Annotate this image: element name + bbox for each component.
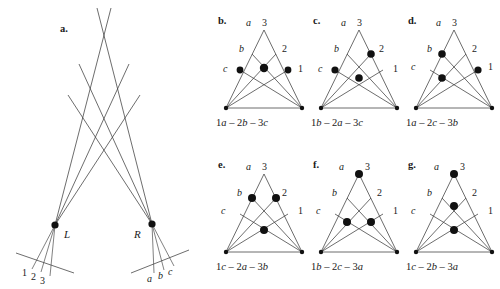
cap-var: c: [263, 117, 268, 128]
panel-f-upper-label-b: b: [332, 187, 337, 198]
panel-g-triangle: [414, 174, 494, 254]
config-dot: [260, 64, 268, 72]
cap-var: c: [358, 117, 363, 128]
left-plane-ticks: [32, 225, 55, 276]
config-dot: [367, 218, 375, 226]
panel-b-apex-label-a: a: [246, 17, 251, 28]
panel-e: e. a 3 b 2 c 1: [216, 159, 304, 272]
panel-c-caption: 1b – 2a – 3c: [311, 117, 363, 128]
base-vertex-right: [490, 106, 494, 110]
panel-d-triangle: [414, 30, 494, 110]
panel-b-upper-label-b: b: [239, 43, 244, 54]
panel-d-dots: [438, 50, 481, 82]
config-dot: [260, 226, 268, 234]
panel-f-letter: f.: [313, 159, 319, 170]
plane-tick-label-1: 1: [22, 267, 27, 278]
vertex-label-R: R: [133, 228, 141, 240]
panel-c-apex-label-3: 3: [357, 17, 362, 28]
config-dot: [450, 170, 458, 178]
panel-f-caption: 1b – 2c – 3a: [311, 261, 363, 272]
panel-b-apex-label-3: 3: [262, 17, 267, 28]
base-vertex-left: [224, 106, 228, 110]
config-dot: [331, 66, 338, 73]
panel-a: a.: [16, 8, 189, 286]
panel-f-lower-label-1: 1: [393, 205, 398, 216]
panel-f-apex-label-a: a: [339, 161, 344, 172]
vertex-dot-R: [148, 220, 155, 227]
cross-b: [226, 198, 276, 252]
config-dot: [474, 66, 481, 73]
cross-b: [226, 54, 276, 108]
panel-f-triangle: [319, 174, 399, 254]
plane-tick-label-2: 2: [31, 271, 36, 282]
config-dot: [450, 226, 458, 234]
panel-d-lower-label-1: 1: [488, 61, 493, 72]
figure-container: a.: [0, 0, 500, 289]
panel-e-apex-label-3: 3: [262, 161, 267, 172]
base-vertex-left: [414, 250, 418, 254]
config-dot: [355, 170, 363, 178]
base-vertex-left: [224, 250, 228, 254]
panel-g-letter: g.: [408, 159, 416, 170]
cap-var: b: [263, 261, 268, 272]
panel-e-upper-label-2: 2: [282, 187, 287, 198]
panel-c-lower-label-c: c: [318, 63, 323, 74]
panel-c: c. a 3 b 2 c 1: [311, 15, 399, 128]
panel-e-lower-label-c: c: [221, 205, 226, 216]
config-dot: [367, 50, 375, 58]
panel-e-dots: [248, 194, 280, 234]
panel-e-letter: e.: [218, 159, 226, 170]
panel-e-upper-label-b: b: [237, 187, 242, 198]
panel-e-lower-label-1: 1: [298, 205, 303, 216]
plane-tick-label-a: a: [147, 273, 152, 284]
panel-c-triangle: [319, 30, 399, 110]
cap-var: a: [358, 261, 363, 272]
panel-g-lower-label-1: 1: [488, 205, 493, 216]
panel-b: b. a 3 b 2 c 1: [216, 15, 304, 128]
panel-g-lower-label-c: c: [411, 205, 416, 216]
panel-b-upper-label-2: 2: [282, 43, 287, 54]
panel-e-triangle: [224, 174, 304, 254]
panel-b-letter: b.: [218, 15, 227, 26]
panel-d-lower-label-c: c: [411, 61, 416, 72]
base-vertex-left: [414, 106, 418, 110]
vertex-label-L: L: [63, 228, 70, 240]
base-vertex-right: [300, 106, 304, 110]
panel-f: f. a 3 b 2 c 1: [311, 159, 399, 272]
cross-d: [252, 198, 302, 252]
panel-c-letter: c.: [313, 15, 321, 26]
plane-tick-label-c: c: [168, 266, 173, 277]
vertex-dot-L: [51, 221, 58, 228]
panel-f-dots: [343, 170, 375, 226]
panel-g-caption: 1c – 2b – 3a: [406, 261, 458, 272]
base-vertex-right: [300, 250, 304, 254]
config-dot: [237, 67, 244, 74]
panel-d-letter: d.: [408, 15, 417, 26]
config-dot: [248, 194, 256, 202]
panel-f-upper-label-2: 2: [377, 187, 382, 198]
panel-d-upper-label-2: 2: [472, 43, 477, 54]
panel-b-lower-label-1: 1: [298, 63, 303, 74]
panel-b-lower-label-c: c: [223, 63, 228, 74]
panel-f-apex-label-3: 3: [365, 161, 370, 172]
cross-d: [442, 54, 492, 108]
base-vertex-right: [490, 250, 494, 254]
plane-tick-label-b: b: [158, 270, 163, 281]
cross-d: [252, 54, 302, 108]
config-dot: [343, 218, 351, 226]
cap-var: a: [453, 261, 458, 272]
cross-b: [416, 198, 466, 252]
panel-g: g. a 3 b 2 c 1: [406, 159, 494, 272]
panel-c-lower-label-1: 1: [393, 63, 398, 74]
cap-var: b: [453, 117, 458, 128]
config-dot: [450, 202, 458, 210]
base-vertex-left: [319, 106, 323, 110]
panel-c-upper-label-b: b: [334, 43, 339, 54]
panel-g-apex-label-a: a: [434, 161, 439, 172]
panel-g-apex-label-3: 3: [460, 161, 465, 172]
panel-a-letter: a.: [60, 23, 68, 34]
panel-a-rays-from-right: [68, 8, 152, 224]
ray-l-3: [55, 95, 140, 225]
plane-tick-label-3: 3: [40, 275, 45, 286]
config-dot: [285, 67, 292, 74]
